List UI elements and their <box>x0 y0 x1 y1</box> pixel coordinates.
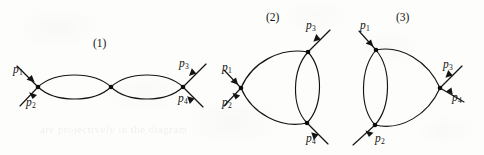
momentum-label-2-p2: p2 <box>222 97 232 109</box>
momentum-subscript: 3 <box>312 24 316 33</box>
momentum-symbol: p <box>375 132 381 144</box>
momentum-symbol: p <box>443 58 449 70</box>
momentum-symbol: p <box>222 96 228 108</box>
diagram-2 <box>224 30 330 144</box>
momentum-subscript: 3 <box>185 62 189 71</box>
vertex-2-bottom <box>305 121 310 126</box>
vertex-3-right <box>438 86 443 91</box>
momentum-symbol: p <box>13 63 19 75</box>
momentum-symbol: p <box>26 96 32 108</box>
momentum-symbol: p <box>222 61 228 73</box>
momentum-subscript: 1 <box>366 24 370 33</box>
momentum-label-2-p1: p1 <box>222 62 232 74</box>
internal-line-3-lens-right <box>375 50 388 125</box>
vertex-1-left <box>36 85 41 90</box>
external-leg-2-p3-line <box>308 30 330 52</box>
vertex-2-top <box>306 50 311 55</box>
external-leg-3-p1-line <box>359 31 376 50</box>
vertex-2-left <box>239 86 244 91</box>
momentum-symbol: p <box>452 91 458 103</box>
figure-page: are projectively in the diagram <box>0 0 484 155</box>
vertex-1-right <box>181 85 186 90</box>
internal-line-2-lens-right <box>307 52 320 123</box>
momentum-subscript: 1 <box>19 68 23 77</box>
internal-line-1b-upper <box>111 75 183 87</box>
momentum-symbol: p <box>179 57 185 69</box>
internal-line-1b-lower <box>111 87 183 99</box>
internal-line-1a-upper <box>38 75 111 87</box>
external-leg-3-p2-line <box>353 125 375 145</box>
momentum-symbol: p <box>306 19 312 31</box>
vertex-1-middle <box>109 85 114 90</box>
vertex-3-top <box>374 48 379 53</box>
momentum-subscript: 4 <box>312 137 316 146</box>
momentum-label-2-p3: p3 <box>306 20 316 32</box>
momentum-symbol: p <box>360 19 366 31</box>
momentum-label-3-p2: p2 <box>375 133 385 145</box>
diagram-1-number: (1) <box>93 38 106 50</box>
momentum-symbol: p <box>306 132 312 144</box>
momentum-label-3-p1: p1 <box>360 20 370 32</box>
momentum-subscript: 4 <box>184 97 188 106</box>
momentum-label-3-p4: p4 <box>452 92 462 104</box>
diagram-3-number: (3) <box>396 12 409 24</box>
diagram-3 <box>353 31 464 145</box>
momentum-label-1-p3: p3 <box>179 58 189 70</box>
momentum-subscript: 3 <box>449 63 453 72</box>
diagram-2-number: (2) <box>266 12 279 24</box>
external-leg-3-p2-arrowhead <box>365 130 373 137</box>
internal-line-1a-lower <box>38 87 111 99</box>
momentum-label-1-p4: p4 <box>178 93 188 105</box>
momentum-subscript: 1 <box>228 66 232 75</box>
momentum-symbol: p <box>178 92 184 104</box>
momentum-subscript: 2 <box>381 137 385 146</box>
vertex-3-bottom <box>373 123 378 128</box>
internal-line-2-lens-left <box>295 52 308 123</box>
momentum-label-1-p1: p1 <box>13 64 23 76</box>
momentum-subscript: 4 <box>458 96 462 105</box>
internal-line-3-lens-left <box>363 50 376 125</box>
momentum-label-1-p2: p2 <box>26 97 36 109</box>
momentum-label-2-p4: p4 <box>306 133 316 145</box>
momentum-subscript: 2 <box>32 101 36 110</box>
momentum-subscript: 2 <box>228 101 232 110</box>
momentum-label-3-p3: p3 <box>443 59 453 71</box>
diagrams-canvas <box>0 0 484 155</box>
